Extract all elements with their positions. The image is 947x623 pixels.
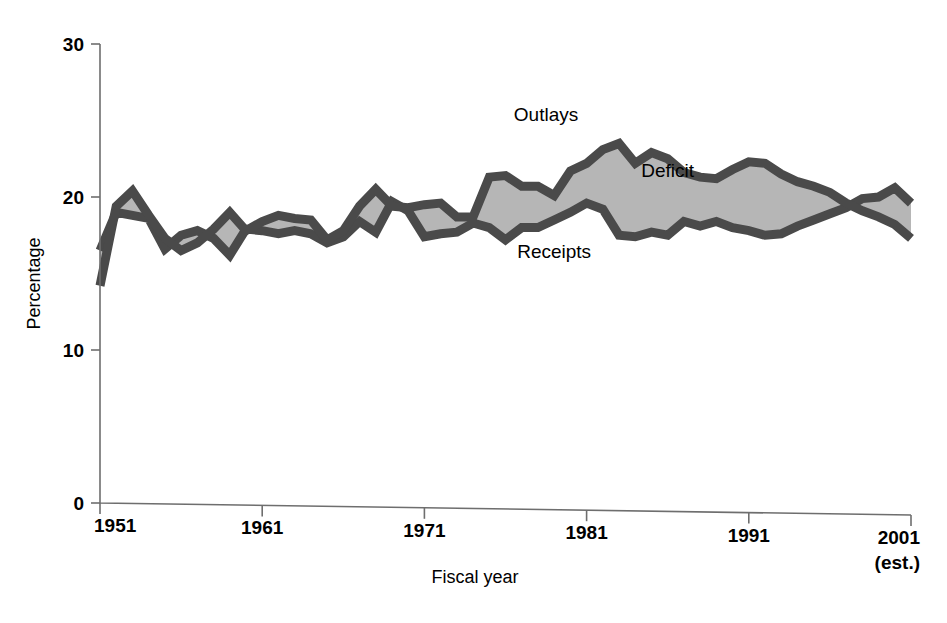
y-tick-label: 20 [63,187,84,208]
chart-container: 0102030 195119611971198119912001(est.) O… [0,0,947,623]
x-tick-label: 1991 [728,525,771,546]
y-axis-title: Percentage [24,237,44,329]
annotation-deficit-label: Deficit [641,160,695,181]
annotation-receipts-label: Receipts [517,241,591,262]
chart-svg: 0102030 195119611971198119912001(est.) O… [0,0,947,623]
x-axis-title: Fiscal year [431,567,518,587]
x-tick-label: 1951 [94,515,137,536]
x-tick-label: 2001 [878,527,921,548]
axis-spine [100,44,911,515]
x-tick-label: 1961 [241,517,284,538]
axes [91,44,911,526]
x-tick-label: 1971 [403,520,446,541]
x-tick-label: 1981 [565,522,608,543]
x-tick-sublabel: (est.) [875,552,920,573]
y-tick-labels: 0102030 [63,34,84,514]
y-tick-label: 10 [63,340,84,361]
y-tick-label: 0 [73,493,84,514]
x-tick-labels: 195119611971198119912001(est.) [94,515,920,573]
y-tick-label: 30 [63,34,84,55]
annotation-outlays-label: Outlays [514,104,578,125]
